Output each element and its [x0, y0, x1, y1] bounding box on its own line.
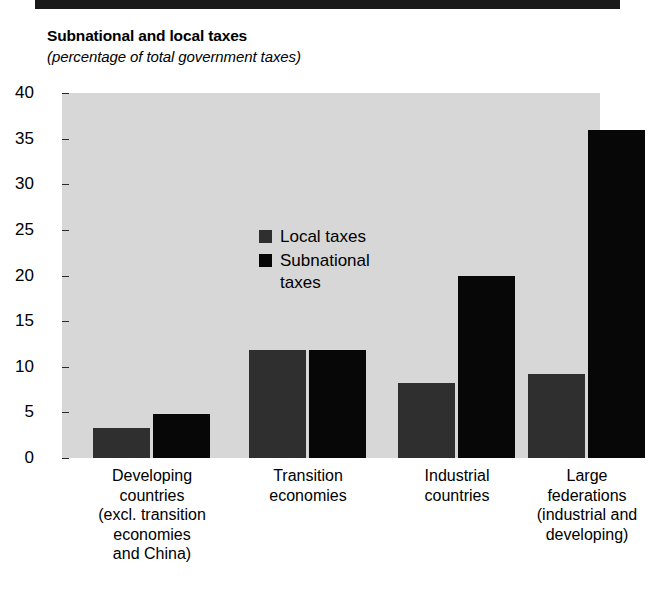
plot-area: Local taxes Subnational taxes — [62, 93, 600, 458]
x-axis-category-line: Transition — [223, 466, 393, 486]
bar-subnational-group-4 — [588, 130, 645, 459]
legend-swatch-subnational-icon — [259, 254, 272, 267]
bar-subnational-group-2 — [309, 350, 366, 458]
legend-label-subnational: Subnational taxes — [280, 250, 405, 294]
x-axis-category-line: Large — [498, 466, 649, 486]
y-axis-tick-label: 35 — [0, 130, 34, 147]
bar-subnational-group-3 — [458, 276, 515, 459]
x-axis-category-line: economies — [57, 525, 247, 545]
x-axis-category-line: (excl. transition — [57, 505, 247, 525]
x-axis-category-line: and China) — [57, 544, 247, 564]
y-axis-tick-label: 10 — [0, 358, 34, 375]
x-axis-category-label: Largefederations(industrial anddevelopin… — [498, 466, 649, 544]
y-axis-tick-label: 25 — [0, 221, 34, 238]
y-axis-tick-mark — [62, 276, 69, 277]
y-axis-tick-mark — [62, 230, 69, 231]
x-axis-category-line: federations — [498, 486, 649, 506]
bar-local-group-1 — [93, 428, 150, 458]
x-axis-category-line: countries — [57, 486, 247, 506]
y-axis-tick-mark — [62, 93, 69, 94]
x-axis-category-line: economies — [223, 486, 393, 506]
y-axis-tick-label: 5 — [0, 403, 34, 420]
y-axis-tick-mark — [62, 321, 69, 322]
bar-subnational-group-1 — [153, 414, 210, 458]
bar-local-group-2 — [249, 350, 306, 458]
y-axis-tick-mark — [62, 458, 69, 459]
y-axis-tick-label: 15 — [0, 312, 34, 329]
legend-item-local: Local taxes — [259, 226, 405, 248]
x-axis-category-line: developing) — [498, 525, 649, 545]
x-axis-category-line: Developing — [57, 466, 247, 486]
y-axis-tick-mark — [62, 184, 69, 185]
x-axis-category-line: (industrial and — [498, 505, 649, 525]
y-axis-tick-label: 0 — [0, 449, 34, 466]
x-axis-category-label: Transitioneconomies — [223, 466, 393, 505]
y-axis-tick-mark — [62, 412, 69, 413]
legend-item-subnational: Subnational taxes — [259, 250, 405, 294]
y-axis-tick-label: 20 — [0, 267, 34, 284]
legend-swatch-local-icon — [259, 230, 272, 243]
y-axis-tick-label: 40 — [0, 84, 34, 101]
y-axis-tick-label: 30 — [0, 175, 34, 192]
chart-legend: Local taxes Subnational taxes — [259, 226, 405, 296]
legend-label-local: Local taxes — [280, 226, 366, 248]
bar-local-group-3 — [398, 383, 455, 458]
x-axis-category-label: Developingcountries(excl. transitionecon… — [57, 466, 247, 564]
y-axis-tick-mark — [62, 367, 69, 368]
bar-local-group-4 — [528, 374, 585, 458]
y-axis-tick-mark — [62, 139, 69, 140]
